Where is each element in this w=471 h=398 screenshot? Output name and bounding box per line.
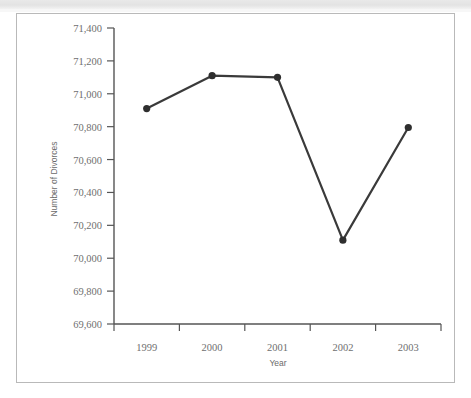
- y-tick-label: 70,800: [73, 122, 102, 133]
- x-tick-label: 2001: [267, 342, 288, 353]
- data-point-1999: [143, 105, 150, 112]
- y-axis-title: Number of Divorces: [49, 141, 59, 216]
- chart-figure-frame: 69,60069,80070,00070,20070,40070,60070,8…: [16, 13, 455, 383]
- series-data-points: [143, 72, 412, 244]
- scan-artifact-band-lower: [0, 9, 471, 12]
- data-point-2001: [274, 74, 281, 81]
- series-line-number-of-divorces: [147, 76, 409, 240]
- data-point-2002: [339, 237, 346, 244]
- y-tick-label: 69,800: [73, 286, 102, 297]
- data-point-2000: [209, 72, 216, 79]
- y-tick-label: 71,000: [73, 89, 102, 100]
- x-axis-tick-labels: 19992000200120022003: [136, 342, 419, 353]
- y-tick-label: 70,400: [73, 187, 102, 198]
- y-tick-label: 71,200: [73, 56, 102, 67]
- x-tick-label: 1999: [136, 342, 157, 353]
- y-tick-label: 71,400: [73, 23, 102, 34]
- x-tick-label: 2000: [202, 342, 223, 353]
- data-point-2003: [405, 124, 412, 131]
- x-axis-ticks: [114, 324, 441, 331]
- line-chart: 69,60069,80070,00070,20070,40070,60070,8…: [17, 14, 456, 384]
- y-tick-label: 69,600: [73, 319, 102, 330]
- y-axis-ticks: 69,60069,80070,00070,20070,40070,60070,8…: [73, 23, 114, 330]
- scan-artifact-band: [0, 0, 471, 9]
- x-tick-label: 2002: [332, 342, 353, 353]
- x-axis-title: Year: [269, 358, 286, 368]
- y-tick-label: 70,600: [73, 155, 102, 166]
- chart-canvas: 69,60069,80070,00070,20070,40070,60070,8…: [17, 14, 456, 384]
- x-tick-label: 2003: [398, 342, 419, 353]
- y-tick-label: 70,000: [73, 253, 102, 264]
- y-tick-label: 70,200: [73, 220, 102, 231]
